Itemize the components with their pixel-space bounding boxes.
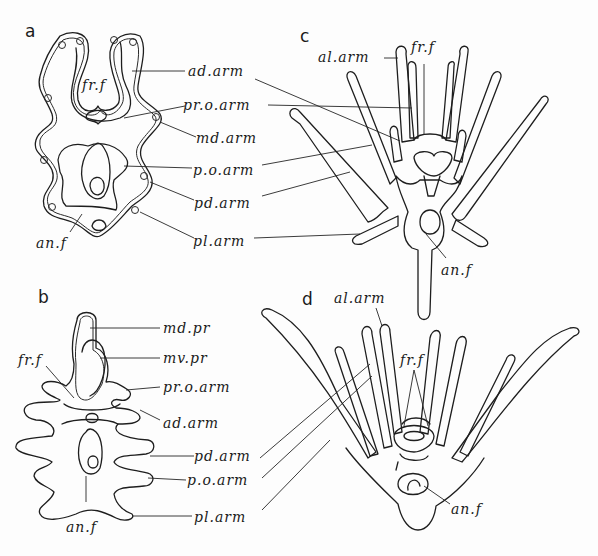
label-b-pr-o-arm: pr.o.arm <box>163 379 231 395</box>
panel-a-lower-lobe <box>58 144 128 210</box>
label-a-p-o-arm: p.o.arm <box>193 162 254 178</box>
label-a-ad-arm: ad.arm <box>188 63 244 79</box>
panel-c-oesophagus <box>424 176 440 196</box>
panel-c-arm-pl-left-low <box>353 216 398 244</box>
panel-a-stomach <box>82 143 110 199</box>
panel-c-arm-pd-right <box>454 72 501 184</box>
label-b-pl-arm: pl.arm <box>194 509 246 525</box>
panel-a-body-outline <box>35 33 161 237</box>
panel-d-arm-al-left2 <box>380 325 402 435</box>
panel-c-arm-po-left <box>390 126 402 162</box>
panel-c-arm-pd-left <box>347 72 396 184</box>
panel-c-arm-al-right <box>446 46 468 142</box>
panel-b-letter: b <box>38 287 49 307</box>
panel-a-body-inner <box>40 38 156 233</box>
label-d-an-f: an.f <box>451 501 484 517</box>
panel-d-stomach-inner <box>408 480 420 490</box>
label-a-md-arm: md.arm <box>196 130 257 146</box>
panel-b: b md.pr fr.f mv.pr pr.o.arm ad.arm pd. <box>16 287 372 535</box>
panel-c-arm-al-left <box>396 46 414 142</box>
panel-c-arm-pl-right <box>452 96 548 220</box>
panel-b-body-inner <box>75 316 103 400</box>
panel-d-leader-lines <box>376 308 450 504</box>
panel-d-stomach <box>398 474 428 495</box>
panel-d-oesophagus <box>396 454 428 470</box>
label-b-an-f: an.f <box>66 519 99 535</box>
panel-b-mv-pr-lobe <box>82 340 105 396</box>
panel-c-oral-hood <box>414 134 446 140</box>
panel-a-intestine <box>90 177 104 194</box>
panel-c-arm-pl-right-low <box>452 220 488 247</box>
panel-d: d al.arm fr.f an.f <box>262 289 579 530</box>
panel-c-arm-po-right <box>454 130 466 162</box>
label-c-frf: fr.f <box>410 39 437 55</box>
panel-d-letter: d <box>302 289 313 309</box>
label-a-frf: fr.f <box>81 77 108 93</box>
panel-d-arm-pl-left <box>262 309 376 458</box>
panel-b-intestine <box>88 456 98 468</box>
label-b-pd-arm: pd.arm <box>194 448 251 464</box>
panel-c-mouth <box>414 152 452 176</box>
label-b-mv-pr: mv.pr <box>163 350 208 366</box>
echinoderm-larva-figure: a <box>0 0 598 556</box>
panel-a-letter: a <box>25 21 35 41</box>
panel-b-mouth <box>86 414 98 423</box>
label-b-frf: fr.f <box>17 352 44 368</box>
figure-canvas: a <box>0 0 598 556</box>
panel-a-mouth <box>86 111 106 124</box>
panel-c: c al.arm fr.f an.f <box>290 26 548 320</box>
panel-d-arm-al-right2 <box>436 337 466 447</box>
panel-c-body <box>396 176 462 320</box>
label-b-ad-arm: ad.arm <box>163 415 219 431</box>
panel-d-arm-pl-right <box>452 328 579 462</box>
label-a-pd-arm: pd.arm <box>194 195 251 211</box>
label-a-an-f: an.f <box>36 235 69 251</box>
label-b-p-o-arm: p.o.arm <box>187 472 248 488</box>
panel-a-anus <box>92 220 106 231</box>
label-d-frf: fr.f <box>399 352 426 368</box>
label-c-al-arm: al.arm <box>318 49 370 65</box>
panel-c-arm-pl-left <box>290 109 388 222</box>
label-b-md-pr: md.pr <box>163 320 211 336</box>
panel-c-stomach <box>420 210 440 234</box>
label-d-al-arm: al.arm <box>334 290 386 306</box>
label-a-pr-o-arm: pr.o.arm <box>183 97 251 113</box>
panel-d-mouth <box>404 432 424 441</box>
label-a-pl-arm: pl.arm <box>193 233 245 249</box>
label-c-an-f: an.f <box>441 262 474 278</box>
panel-c-letter: c <box>300 26 309 46</box>
panel-d-arm-pd-right <box>460 355 515 456</box>
